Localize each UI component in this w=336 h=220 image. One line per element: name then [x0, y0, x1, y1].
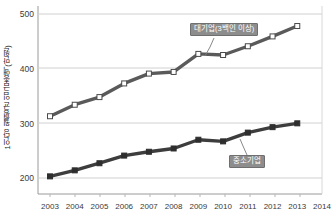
annotation-small-firm: 중소기업	[229, 155, 265, 168]
data-point-marker	[72, 102, 77, 107]
data-point-marker	[270, 125, 275, 130]
data-point-marker	[221, 139, 226, 144]
data-point-marker	[171, 69, 176, 74]
annotation-large-firm: 대기업(3백인 이상)	[190, 23, 258, 36]
x-tick-label-2014: 2014	[307, 203, 336, 211]
data-point-marker	[245, 44, 250, 49]
data-point-marker	[171, 146, 176, 151]
data-point-marker	[97, 95, 102, 100]
data-point-marker	[270, 34, 275, 39]
data-point-marker	[196, 51, 201, 56]
data-point-marker	[122, 81, 127, 86]
data-point-marker	[72, 168, 77, 173]
data-point-marker	[146, 71, 151, 76]
callout-leader-small	[240, 139, 247, 155]
data-point-marker	[48, 174, 53, 179]
data-point-marker	[48, 114, 53, 119]
data-point-marker	[295, 121, 300, 126]
data-point-marker	[295, 24, 300, 29]
data-point-marker	[97, 161, 102, 166]
data-point-marker	[221, 53, 226, 58]
series-markers-large-firm	[48, 24, 300, 119]
data-point-marker	[146, 149, 151, 154]
data-point-marker	[245, 130, 250, 135]
data-point-marker	[122, 153, 127, 158]
data-point-marker	[196, 137, 201, 142]
